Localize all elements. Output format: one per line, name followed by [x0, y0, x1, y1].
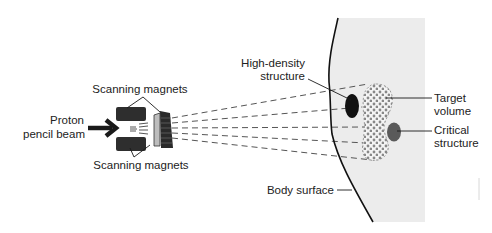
scanning-magnet-bottom — [116, 137, 146, 151]
label-proton: Proton — [50, 114, 84, 126]
beam-bundle — [130, 123, 148, 134]
label-volume: volume — [434, 105, 471, 117]
scanning-magnet-deflector — [154, 111, 173, 148]
label-body-surface: Body surface — [267, 184, 334, 196]
scanning-magnet-top — [116, 107, 146, 121]
label-pencil-beam: pencil beam — [23, 128, 85, 140]
label-high-density: High-density — [241, 57, 305, 69]
label-critical-structure: structure — [434, 137, 479, 149]
label-target: Target — [434, 92, 467, 104]
label-critical: Critical — [434, 124, 469, 136]
label-high-density-structure: structure — [260, 70, 305, 82]
diagram-canvas: Proton pencil beam Scanning magnets Scan… — [0, 0, 492, 233]
label-scanning-magnets-bottom: Scanning magnets — [93, 159, 189, 171]
label-scanning-magnets-top: Scanning magnets — [92, 83, 188, 95]
arrow-right-icon — [88, 120, 116, 136]
critical-structure — [387, 123, 401, 142]
